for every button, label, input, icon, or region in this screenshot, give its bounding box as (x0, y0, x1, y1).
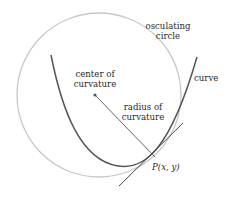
center-of-curvature-label-line2: curvature (74, 79, 117, 89)
osculating-circle-label-line2: circle (156, 31, 180, 41)
radius-of-curvature-label-line2: curvature (122, 112, 165, 122)
curve-label: curve (194, 73, 218, 83)
tangent-line (119, 123, 183, 186)
osculating-circle-label-line1: osculating (145, 21, 191, 31)
point-p-label: P(x, y) (151, 162, 180, 172)
center-of-curvature-label-line1: center of (75, 69, 115, 79)
radius-of-curvature-label-line1: radius of (124, 102, 163, 112)
osculating-circle-diagram: osculating circle curve center of curvat… (0, 0, 234, 199)
center-of-curvature-dot (93, 93, 96, 96)
